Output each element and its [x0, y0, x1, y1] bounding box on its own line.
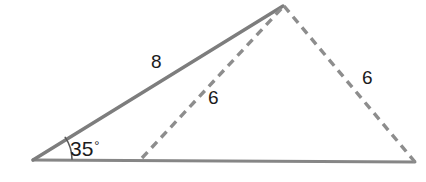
segment-base — [33, 160, 415, 162]
label-side-left: 8 — [151, 52, 162, 71]
geometry-diagram: 8 6 6 35° — [0, 0, 426, 182]
degree-symbol-icon: ° — [94, 138, 99, 153]
angle-value-text: 35 — [70, 137, 93, 160]
label-side-right: 6 — [362, 68, 373, 87]
segment-right-side — [284, 6, 415, 162]
label-angle-35-degrees: 35° — [70, 138, 99, 159]
segment-cevian — [142, 8, 282, 158]
label-side-cevian: 6 — [208, 88, 219, 107]
